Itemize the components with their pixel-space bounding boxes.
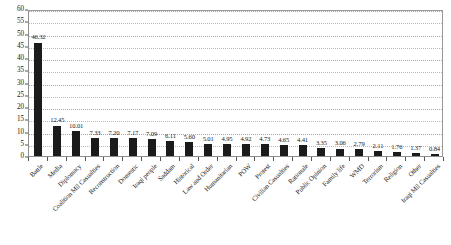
bar-value-label: 10.01 bbox=[69, 123, 83, 130]
y-axis-tick-label: 40 bbox=[17, 55, 24, 62]
bar-value-label: 3.35 bbox=[316, 140, 327, 147]
y-axis-tick-label: 25 bbox=[17, 92, 24, 99]
y-axis-tick-label: 35 bbox=[17, 68, 24, 75]
x-axis-tick-mark bbox=[236, 157, 237, 161]
bar-value-label: 4.95 bbox=[222, 136, 233, 143]
bar-slot: 5.60 bbox=[180, 11, 199, 156]
bar bbox=[204, 144, 212, 156]
bar-slot: 7.09 bbox=[142, 11, 161, 156]
x-axis-tick-mark bbox=[330, 157, 331, 161]
x-axis-tick-mark bbox=[386, 157, 387, 161]
bar-value-label: 3.06 bbox=[335, 140, 346, 147]
bar bbox=[72, 131, 80, 156]
bar-slot: 7.17 bbox=[123, 11, 142, 156]
y-axis-tick-label: 55 bbox=[17, 19, 24, 26]
bar-slot: 3.06 bbox=[331, 11, 350, 156]
bar-value-label: 7.17 bbox=[127, 130, 138, 137]
bar bbox=[148, 139, 156, 156]
bar bbox=[185, 142, 193, 156]
y-axis: 051015202530354045505560 bbox=[0, 10, 28, 157]
bar-value-label: 5.01 bbox=[203, 136, 214, 143]
x-axis-tick-mark bbox=[66, 157, 67, 161]
x-axis-tick-mark bbox=[141, 157, 142, 161]
bar-value-label: 4.65 bbox=[278, 137, 289, 144]
x-axis-tick-label: Religion bbox=[383, 163, 404, 184]
bar-slot: 7.20 bbox=[104, 11, 123, 156]
bar-value-label: 4.41 bbox=[297, 137, 308, 144]
bar-value-label: 46.32 bbox=[31, 34, 45, 41]
bar-slot: 4.65 bbox=[274, 11, 293, 156]
bar bbox=[261, 144, 269, 156]
x-axis-tick-mark bbox=[349, 157, 350, 161]
bar-slot: 7.33 bbox=[86, 11, 105, 156]
bar bbox=[91, 138, 99, 156]
bar bbox=[336, 149, 344, 156]
bar-slot: 46.32 bbox=[29, 11, 48, 156]
bar-value-label: 2.79 bbox=[354, 141, 365, 148]
y-axis-tick-label: 20 bbox=[17, 104, 24, 111]
y-axis-tick-label: 45 bbox=[17, 43, 24, 50]
x-axis-tick-mark bbox=[122, 157, 123, 161]
bar bbox=[280, 145, 288, 156]
y-axis-tick-label: 50 bbox=[17, 31, 24, 38]
x-axis-tick-label: Other bbox=[407, 163, 422, 178]
bar bbox=[223, 144, 231, 156]
bar-value-label: 6.11 bbox=[165, 133, 176, 140]
bar-chart: 051015202530354045505560 46.3212.4510.01… bbox=[0, 0, 451, 245]
bar-value-label: 12.45 bbox=[50, 117, 64, 124]
bar-value-label: 4.73 bbox=[259, 136, 270, 143]
y-axis-tick-label: 10 bbox=[17, 129, 24, 136]
y-axis-tick-label: 60 bbox=[17, 6, 24, 13]
bar-slot: 2.79 bbox=[350, 11, 369, 156]
x-axis-tick-mark bbox=[311, 157, 312, 161]
x-axis-tick-mark bbox=[424, 157, 425, 161]
bar-value-label: 7.33 bbox=[90, 130, 101, 137]
x-axis-tick-mark bbox=[273, 157, 274, 161]
bar-slot: 10.01 bbox=[67, 11, 86, 156]
bar-value-label: 4.92 bbox=[240, 136, 251, 143]
bar-slot: 4.95 bbox=[218, 11, 237, 156]
bar bbox=[374, 151, 382, 156]
x-axis-tick-mark bbox=[160, 157, 161, 161]
x-axis-tick-mark bbox=[47, 157, 48, 161]
x-axis-tick-mark bbox=[85, 157, 86, 161]
bar bbox=[355, 149, 363, 156]
x-axis-tick-mark bbox=[254, 157, 255, 161]
x-axis-tick-mark bbox=[217, 157, 218, 161]
bar-slot: 2.11 bbox=[369, 11, 388, 156]
bar bbox=[166, 141, 174, 156]
x-axis: BattleMediaDiplomacyCoalition Mil Casual… bbox=[28, 157, 443, 245]
x-axis-tick-mark bbox=[28, 157, 29, 161]
bar bbox=[412, 153, 420, 156]
bar bbox=[110, 138, 118, 156]
x-axis-tick-mark bbox=[198, 157, 199, 161]
x-axis-tick-mark bbox=[368, 157, 369, 161]
bar bbox=[129, 138, 137, 156]
bar-value-label: 0.84 bbox=[429, 146, 440, 153]
bar-slot: 4.92 bbox=[237, 11, 256, 156]
x-axis-tick-mark bbox=[103, 157, 104, 161]
bar-slot: 1.37 bbox=[406, 11, 425, 156]
y-axis-tick-label: 0 bbox=[21, 153, 25, 160]
y-axis-tick-label: 5 bbox=[21, 141, 25, 148]
bar-slot: 6.11 bbox=[161, 11, 180, 156]
bar bbox=[317, 148, 325, 156]
bar bbox=[34, 43, 42, 156]
bar-value-label: 2.11 bbox=[373, 143, 384, 150]
bar bbox=[431, 154, 439, 156]
bar-value-label: 7.20 bbox=[108, 130, 119, 137]
bar-slot: 12.45 bbox=[48, 11, 67, 156]
bar-slot: 0.84 bbox=[425, 11, 444, 156]
bar bbox=[53, 126, 61, 157]
bar bbox=[299, 145, 307, 156]
y-axis-tick-label: 15 bbox=[17, 117, 24, 124]
x-axis-tick-label: POW bbox=[237, 163, 252, 178]
x-axis-tick-mark bbox=[292, 157, 293, 161]
bar-slot: 4.41 bbox=[293, 11, 312, 156]
plot-area: 46.3212.4510.017.337.207.177.096.115.605… bbox=[28, 10, 443, 157]
x-axis-tick-mark bbox=[179, 157, 180, 161]
bar-value-label: 1.76 bbox=[391, 144, 402, 151]
bar-value-label: 7.09 bbox=[146, 131, 157, 138]
bar-value-label: 5.60 bbox=[184, 134, 195, 141]
bar-value-label: 1.37 bbox=[410, 145, 421, 152]
